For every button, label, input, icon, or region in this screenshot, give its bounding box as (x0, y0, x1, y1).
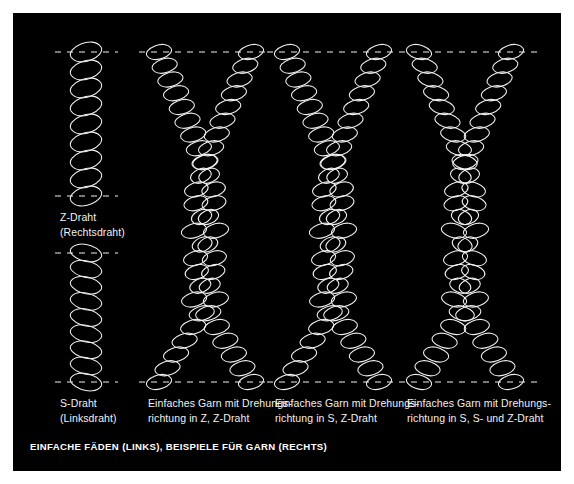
yarn-yarn-s-sz (406, 44, 523, 389)
strand-group (70, 42, 523, 391)
diagram-panel: Z-Draht (Rechtsdraht) S-Draht (Linksdrah… (13, 13, 561, 471)
caption-bar: EINFACHE FÄDEN (LINKS), BEISPIELE FÜR GA… (13, 429, 561, 471)
label-yarn-s-z: Einfaches Garn mit Drehungs- richtung in… (275, 396, 419, 425)
ply-strand-left (406, 44, 486, 389)
ply-strand-left (274, 44, 354, 389)
ply-strand-left (146, 44, 226, 389)
strand-s-draht-coil (70, 244, 101, 391)
ply-strand-right (444, 44, 524, 389)
ply-strand-right (184, 44, 264, 389)
label-yarn-z-z: Einfaches Garn mit Drehungs- richtung in… (148, 396, 292, 425)
ply-strand-right (312, 44, 392, 389)
label-yarn-s-sz: Einfaches Garn mit Drehungs- richtung in… (407, 396, 551, 425)
yarn-yarn-s-z (274, 44, 391, 389)
label-s-draht: S-Draht (Linksdraht) (60, 396, 117, 425)
guide-lines-group (55, 52, 541, 382)
figure-caption: EINFACHE FÄDEN (LINKS), BEISPIELE FÜR GA… (30, 441, 327, 452)
strand-z-draht-coil (70, 42, 101, 206)
label-z-draht: Z-Draht (Rechtsdraht) (60, 210, 125, 239)
yarn-yarn-z-z (146, 44, 263, 389)
figure-root: Z-Draht (Rechtsdraht) S-Draht (Linksdrah… (0, 0, 574, 484)
